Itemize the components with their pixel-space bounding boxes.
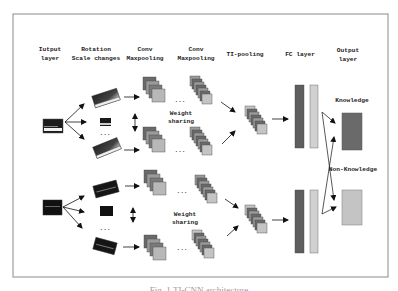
output-layer: Knowledge Non-Knowledge — [322, 97, 377, 225]
knowledge-output-box — [342, 113, 362, 150]
tipool-stack-top — [245, 106, 267, 134]
conv1-stack-bottom-b — [144, 235, 166, 260]
fc-bar-light-bottom — [310, 190, 318, 253]
fc-bar-light-top — [310, 85, 318, 148]
architecture-diagram: Iutput layer Rotation Scale changes Conv… — [0, 0, 398, 291]
ellipsis: ··· — [99, 226, 110, 233]
scaled-image-bottom — [100, 206, 113, 216]
header-rotation-line1: Rotation — [81, 46, 111, 53]
branch-top: ··· ··· ··· Weight sharing — [43, 76, 318, 158]
header-conv2-line1: Conv — [189, 46, 204, 53]
header-input-line1: Iutput — [39, 46, 62, 53]
header-fc: FC layer — [285, 51, 315, 58]
conv1-stack-top-a — [143, 77, 165, 102]
figure-caption: Fig. 1 TI-CNN architecture — [0, 283, 398, 291]
non-knowledge-output-box — [342, 190, 362, 225]
header-rotation-line2: Scale changes — [72, 55, 121, 62]
input-image-bottom — [43, 200, 62, 215]
ellipsis: ··· — [176, 246, 187, 253]
input-image-top — [43, 119, 63, 133]
conv1-stack-bottom-a — [144, 170, 166, 195]
header-conv1-line1: Conv — [138, 46, 153, 53]
non-knowledge-label: Non-Knowledge — [329, 166, 378, 173]
header-tipool: TI-pooling — [226, 51, 263, 58]
ellipsis: ··· — [174, 148, 185, 155]
weight-sharing-bottom-line2: sharing — [172, 219, 198, 226]
fc-bar-dark-top — [295, 85, 304, 148]
column-headers: Iutput layer Rotation Scale changes Conv… — [39, 46, 360, 63]
ellipsis: ··· — [99, 131, 110, 138]
rotated-image-1 — [92, 88, 120, 107]
conv2-stack-top-a — [190, 76, 212, 104]
conv2-stack-top-b — [190, 127, 212, 155]
header-input-line2: layer — [41, 55, 60, 62]
header-output-line2: layer — [339, 56, 358, 63]
conv1-stack-top-b — [143, 127, 165, 152]
header-conv1-line2: Maxpooling — [126, 55, 163, 62]
fc-bar-dark-bottom — [295, 190, 304, 253]
header-conv2-line2: Maxpooling — [177, 55, 214, 62]
ellipsis: ··· — [176, 189, 187, 196]
scaled-image — [100, 118, 111, 126]
knowledge-label: Knowledge — [335, 97, 369, 104]
rotated-image-3 — [93, 180, 119, 198]
ellipsis: ··· — [174, 98, 185, 105]
branch-bottom: ··· ··· ··· Weight sharing — [43, 170, 318, 260]
conv2-stack-bottom-b — [192, 230, 214, 258]
tipool-stack-bottom — [245, 205, 267, 233]
header-output-line1: Output — [337, 47, 360, 54]
weight-sharing-top-line1: Weight — [170, 110, 193, 117]
weight-sharing-bottom-line1: Weight — [174, 211, 197, 218]
conv2-stack-bottom-a — [195, 175, 217, 203]
rotated-image-4 — [93, 237, 117, 254]
rotated-image-2 — [93, 138, 122, 159]
weight-sharing-top-line2: sharing — [168, 118, 194, 125]
